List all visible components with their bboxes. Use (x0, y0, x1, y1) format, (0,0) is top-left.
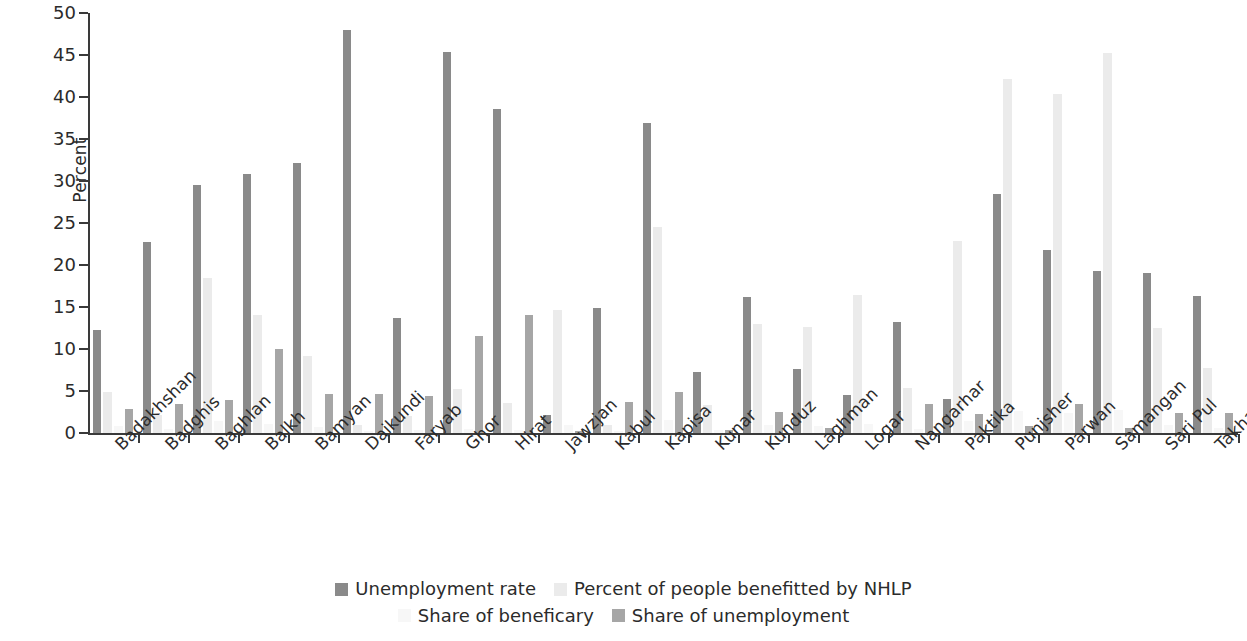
x-tick-label: Hirat (511, 440, 525, 454)
y-tick-mark (79, 138, 88, 140)
legend-item[interactable]: Share of beneficary (398, 605, 594, 628)
bar (243, 174, 252, 433)
bar (653, 227, 662, 433)
legend-item[interactable]: Percent of people benefitted by NHLP (554, 578, 912, 601)
x-tick-label: Punjsher (1011, 440, 1025, 454)
y-tick-label: 30 (26, 172, 76, 190)
y-tick-label: 20 (26, 256, 76, 274)
y-tick-mark (79, 432, 88, 434)
x-tick-label: Paktika (961, 440, 975, 454)
bar (643, 123, 652, 433)
legend-item[interactable]: Share of unemployment (612, 605, 849, 628)
bar (443, 52, 452, 433)
bar (503, 403, 512, 433)
x-tick-label: Laghman (811, 440, 825, 454)
x-tick-label: Sari Pul (1161, 440, 1175, 454)
x-tick-label: Takhar (1211, 440, 1225, 454)
bar (293, 163, 302, 433)
bar (493, 109, 502, 433)
bar (525, 315, 534, 433)
y-tick-label: 45 (26, 46, 76, 64)
x-tick-label: Bamyan (311, 440, 325, 454)
y-tick-label: 5 (26, 382, 76, 400)
y-tick-label: 25 (26, 214, 76, 232)
legend-label: Share of beneficary (418, 605, 594, 628)
y-tick-label: 40 (26, 88, 76, 106)
y-tick-mark (79, 264, 88, 266)
x-tick-label: Faryab (411, 440, 425, 454)
bar (1103, 53, 1112, 433)
legend-label: Percent of people benefitted by NHLP (574, 578, 912, 601)
legend-swatch-icon (612, 609, 625, 622)
x-tick-label: Kapisa (661, 440, 675, 454)
y-tick-mark (79, 96, 88, 98)
x-tick-label: Nangarhar (911, 440, 925, 454)
x-tick-label: Kunduz (761, 440, 775, 454)
y-tick-label: 15 (26, 298, 76, 316)
x-axis-labels: BadakhshanBadghisBaghlanBalkhBamyanDaiku… (88, 440, 1238, 560)
bar (993, 194, 1002, 433)
y-tick-mark (79, 348, 88, 350)
y-tick-label: 0 (26, 424, 76, 442)
y-tick-label: 10 (26, 340, 76, 358)
legend-swatch-icon (335, 583, 348, 596)
x-tick-label: Parwan (1061, 440, 1075, 454)
bar (553, 310, 562, 433)
y-tick-mark (79, 54, 88, 56)
bar (603, 425, 612, 433)
x-tick-label: Ghor (461, 440, 475, 454)
x-tick-label: Jawzjan (561, 440, 575, 454)
legend-label: Unemployment rate (355, 578, 536, 601)
bar (193, 185, 202, 433)
legend-label: Share of unemployment (632, 605, 849, 628)
x-tick-label: Samangan (1111, 440, 1125, 454)
bar (1003, 79, 1012, 433)
x-tick-label: Badakhshan (111, 440, 125, 454)
x-tick-label: Kunar (711, 440, 725, 454)
x-tick-label: Baghlan (211, 440, 225, 454)
bar (903, 388, 912, 433)
bar (343, 30, 352, 433)
x-tick-label: Kabul (611, 440, 625, 454)
bar (93, 330, 102, 433)
y-tick-mark (79, 180, 88, 182)
legend-row: Share of beneficaryShare of unemployment (389, 605, 858, 628)
x-tick-label: Badghis (161, 440, 175, 454)
x-tick-label: Daikundi (361, 440, 375, 454)
legend-item[interactable]: Unemployment rate (335, 578, 536, 601)
legend-swatch-icon (398, 609, 411, 622)
y-tick-mark (79, 390, 88, 392)
plot-area: 05101520253035404550 (88, 13, 1238, 433)
legend-swatch-icon (554, 583, 567, 596)
y-tick-label: 35 (26, 130, 76, 148)
x-tick-label: Logar (861, 440, 875, 454)
y-tick-mark (79, 306, 88, 308)
bar (353, 425, 362, 433)
chart-legend: Unemployment ratePercent of people benef… (0, 578, 1247, 627)
y-tick-label: 50 (26, 4, 76, 22)
legend-row: Unemployment ratePercent of people benef… (326, 578, 920, 601)
bar (103, 392, 112, 433)
bar (1053, 94, 1062, 433)
bar-chart: Percent 05101520253035404550 BadakhshanB… (0, 0, 1247, 641)
y-tick-mark (79, 12, 88, 14)
y-tick-mark (79, 222, 88, 224)
y-axis-line (88, 13, 90, 434)
x-tick-label: Balkh (261, 440, 275, 454)
